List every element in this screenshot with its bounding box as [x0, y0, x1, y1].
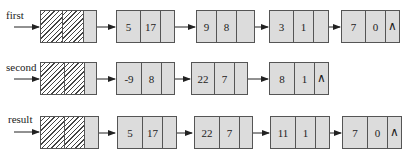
head-pointer-cell [85, 117, 98, 148]
head-hatched-cell [63, 11, 84, 42]
null-pointer-icon: ∧ [386, 11, 399, 42]
list-label-result: result [8, 114, 32, 125]
list-node: 22 7 [191, 62, 248, 95]
list-node: 5 17 [116, 10, 175, 43]
next-pointer-cell [161, 11, 174, 42]
coef-cell: 7 [342, 11, 366, 42]
exp-cell: 0 [368, 117, 388, 148]
exp-cell: 1 [296, 117, 316, 148]
coef-cell: -9 [117, 63, 142, 94]
next-pointer-cell [316, 117, 329, 148]
null-pointer-icon: ∧ [388, 117, 401, 148]
head-hatched-cell [65, 117, 85, 148]
list-node: 11 1 [270, 116, 330, 149]
list-node: 7 0 ∧ [342, 116, 402, 149]
coef-cell: 8 [270, 63, 295, 94]
head-node-second [40, 62, 97, 95]
list-label-second: second [6, 62, 37, 73]
exp-cell: 17 [141, 11, 161, 42]
coef-cell: 5 [118, 117, 143, 148]
coef-cell: 22 [195, 117, 220, 148]
list-node: 22 7 [194, 116, 253, 149]
next-pointer-cell [235, 63, 247, 94]
exp-cell: 7 [220, 117, 240, 148]
coef-cell: 5 [117, 11, 141, 42]
head-hatched-cell [65, 63, 85, 94]
head-pointer-cell [84, 11, 96, 42]
coef-cell: 9 [197, 11, 217, 42]
null-pointer-icon: ∧ [315, 63, 328, 94]
next-pointer-cell [162, 63, 174, 94]
head-hatched-cell [41, 117, 65, 148]
list-node: 5 17 [117, 116, 177, 149]
next-pointer-cell [314, 11, 328, 42]
head-hatched-cell [41, 63, 65, 94]
list-node: 9 8 [196, 10, 255, 43]
head-pointer-cell [85, 63, 96, 94]
list-label-first: first [6, 10, 24, 21]
list-node: -9 8 [116, 62, 175, 95]
exp-cell: 0 [366, 11, 386, 42]
exp-cell: 7 [215, 63, 235, 94]
exp-cell: 1 [294, 11, 314, 42]
list-node: 8 1 ∧ [269, 62, 329, 95]
coef-cell: 3 [270, 11, 294, 42]
next-pointer-cell [237, 11, 254, 42]
head-node-first [40, 10, 97, 43]
exp-cell: 1 [295, 63, 315, 94]
exp-cell: 17 [143, 117, 163, 148]
head-hatched-cell [41, 11, 63, 42]
next-pointer-cell [163, 117, 176, 148]
coef-cell: 11 [271, 117, 296, 148]
head-node-result [40, 116, 99, 149]
exp-cell: 8 [217, 11, 237, 42]
next-pointer-cell [240, 117, 252, 148]
exp-cell: 8 [142, 63, 162, 94]
coef-cell: 7 [343, 117, 368, 148]
list-node: 3 1 [269, 10, 329, 43]
coef-cell: 22 [192, 63, 215, 94]
list-node: 7 0 ∧ [341, 10, 400, 43]
